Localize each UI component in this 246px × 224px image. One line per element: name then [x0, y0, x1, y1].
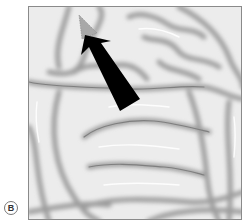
- panel-label: B: [4, 201, 18, 215]
- brain-surface-illustration: [29, 7, 242, 220]
- illustration-frame: [28, 6, 242, 220]
